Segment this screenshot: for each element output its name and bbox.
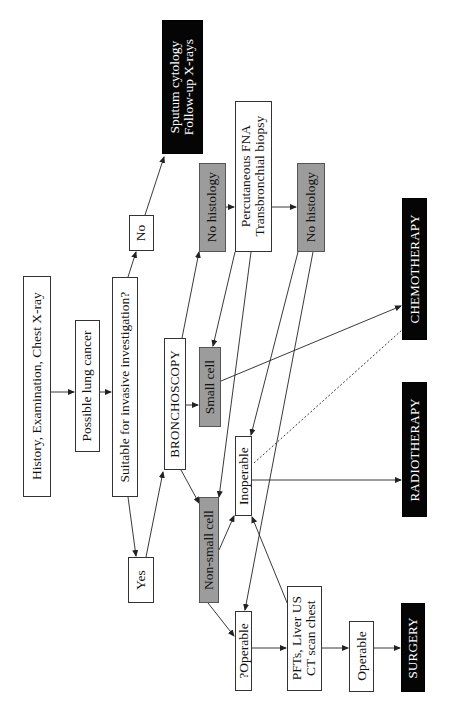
node-yes-label: Yes	[134, 570, 148, 590]
node-pfts: PFTs, Liver US CT scan chest	[287, 586, 322, 691]
node-possible-label: Possible lung cancer	[80, 331, 94, 442]
node-pfts-line2: CT scan chest	[305, 596, 319, 680]
node-no-label: No	[134, 225, 148, 242]
node-sputum-line2: Follow-up X-rays	[183, 39, 197, 135]
node-small-cell: Small cell	[199, 347, 221, 427]
node-q-operable-label: ?Operable	[236, 623, 250, 678]
node-radiotherapy: RADIOTHERAPY	[402, 382, 427, 517]
node-percutaneous-fna: Percutaneous FNA Transbronchial biopsy	[235, 101, 272, 252]
node-no-histology-2-label: No histology	[304, 172, 318, 242]
node-radiotherapy-label: RADIOTHERAPY	[408, 398, 422, 502]
node-non-small-cell-label: Non-small cell	[202, 510, 216, 590]
flowchart-connectors	[0, 0, 452, 715]
node-surgery: SURGERY	[401, 603, 425, 692]
node-no-histology-1: No histology	[199, 163, 226, 252]
node-history-label: History, Examination, Chest X-ray	[30, 293, 44, 481]
node-small-cell-label: Small cell	[203, 360, 217, 414]
node-q-operable: ?Operable	[235, 611, 252, 691]
lung-cancer-flowchart: History, Examination, Chest X-ray Possib…	[0, 0, 452, 715]
node-suitable-question: Suitable for invasive investigation?	[112, 277, 138, 497]
node-sputum-cytology: Sputum cytology Follow-up X-rays	[162, 20, 203, 154]
node-operable: Operable	[349, 621, 374, 692]
node-chemotherapy: CHEMOTHERAPY	[402, 198, 427, 340]
node-possible-lung-cancer: Possible lung cancer	[75, 320, 100, 452]
node-no-histology-2: No histology	[297, 163, 325, 252]
node-percutaneous-line2: Transbronchial biopsy	[254, 116, 268, 237]
node-inoperable: Inoperable	[235, 436, 252, 516]
node-chemotherapy-label: CHEMOTHERAPY	[408, 214, 422, 323]
node-history: History, Examination, Chest X-ray	[23, 276, 51, 497]
node-yes: Yes	[128, 557, 154, 603]
node-non-small-cell: Non-small cell	[199, 497, 219, 603]
node-inoperable-label: Inoperable	[236, 447, 250, 505]
node-surgery-label: SURGERY	[406, 617, 420, 678]
node-operable-label: Operable	[354, 632, 368, 681]
node-suitable-label: Suitable for invasive investigation?	[118, 292, 132, 483]
node-bronchoscopy-label: BRONCHOSCOPY	[168, 350, 182, 458]
node-no-histology-1-label: No histology	[205, 172, 219, 242]
node-no: No	[129, 215, 154, 251]
node-bronchoscopy: BRONCHOSCOPY	[164, 338, 186, 470]
